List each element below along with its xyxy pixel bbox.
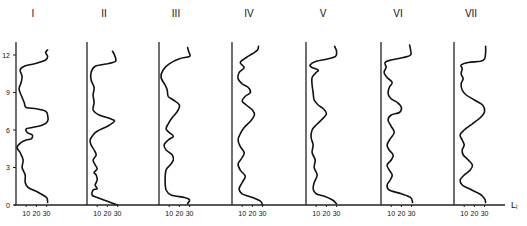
y-tick-label: 3 (6, 164, 10, 171)
panel-label: II (101, 8, 107, 19)
y-axis-tick-labels: 036912 (2, 52, 16, 209)
profile-curve (161, 48, 190, 204)
panel-iv: IV102030 (232, 8, 267, 217)
panel-label: VI (393, 8, 402, 19)
profile-curve (90, 51, 118, 205)
panel-vi: VI102030 (381, 8, 416, 217)
panel-label: I (32, 8, 35, 19)
profile-curve (384, 45, 413, 203)
x-tick-label: 20 (323, 210, 331, 217)
x-tick-label: 20 (471, 210, 479, 217)
x-tick-label: 10 (238, 210, 246, 217)
y-tick-label: 6 (6, 127, 10, 134)
panel-label: VII (465, 8, 477, 19)
x-tick-label: 20 (176, 210, 184, 217)
x-axis-symbol: Lᵢ (511, 200, 517, 210)
profile-curve (17, 50, 48, 203)
profile-panels: I102030II102030III102030IV102030V102030V… (16, 8, 489, 217)
profile-curve (310, 46, 337, 204)
x-tick-label: 20 (249, 210, 257, 217)
x-tick-label: 30 (333, 210, 341, 217)
panel-vii: VII102030 (454, 8, 489, 217)
profile-curve (460, 46, 486, 202)
panel-label: V (320, 8, 327, 19)
x-tick-label: 10 (460, 210, 468, 217)
panel-label: IV (244, 8, 254, 19)
panel-ii: II102030 (87, 8, 122, 217)
x-tick-label: 10 (387, 210, 395, 217)
y-tick-label: 12 (2, 52, 10, 59)
x-tick-label: 10 (22, 210, 30, 217)
panel-v: V102030 (306, 8, 341, 217)
x-tick-label: 30 (114, 210, 122, 217)
x-tick-label: 30 (186, 210, 194, 217)
panel-i: I102030 (16, 8, 51, 217)
stratigraphic-profile-chart: 036912 I102030II102030III102030IV102030V… (0, 0, 527, 226)
x-tick-label: 30 (43, 210, 51, 217)
x-tick-label: 10 (93, 210, 101, 217)
y-tick-label: 0 (6, 202, 10, 209)
profile-curve (238, 46, 263, 205)
x-tick-label: 20 (33, 210, 41, 217)
x-tick-label: 10 (165, 210, 173, 217)
x-tick-label: 20 (398, 210, 406, 217)
x-tick-label: 30 (408, 210, 416, 217)
x-tick-label: 30 (481, 210, 489, 217)
x-tick-label: 20 (104, 210, 112, 217)
x-tick-label: 30 (259, 210, 267, 217)
panel-label: III (172, 8, 180, 19)
x-tick-label: 10 (312, 210, 320, 217)
y-tick-label: 9 (6, 89, 10, 96)
panel-iii: III102030 (159, 8, 194, 217)
